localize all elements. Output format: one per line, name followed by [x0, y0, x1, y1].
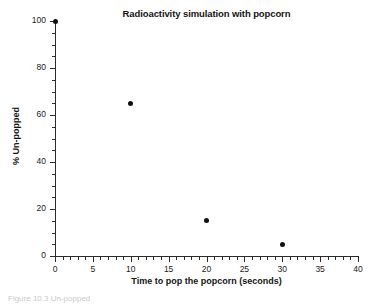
y-axis-tick-label: 80	[14, 62, 46, 72]
x-axis-major-tick	[131, 257, 132, 262]
x-axis-minor-tick	[343, 257, 344, 260]
y-axis-tick-label: 0	[14, 250, 46, 260]
x-axis-major-tick	[244, 257, 245, 262]
x-axis-major-tick	[320, 257, 321, 262]
x-axis-minor-tick	[229, 257, 230, 260]
data-point	[128, 101, 133, 106]
x-axis-minor-tick	[153, 257, 154, 260]
x-axis-minor-tick	[313, 257, 314, 260]
figure-container: Radioactivity simulation with popcorn 05…	[0, 0, 373, 304]
x-axis-minor-tick	[161, 257, 162, 260]
x-axis-minor-tick	[237, 257, 238, 260]
x-axis-tick-label: 0	[40, 264, 70, 274]
x-axis-tick-label: 10	[116, 264, 146, 274]
chart-title: Radioactivity simulation with popcorn	[55, 8, 358, 19]
x-axis-minor-tick	[214, 257, 215, 260]
x-axis-label: Time to pop the popcorn (seconds)	[55, 276, 358, 286]
figure-caption: Figure 10.3 Un-popped	[8, 294, 368, 304]
x-axis-minor-tick	[138, 257, 139, 260]
x-axis-minor-tick	[260, 257, 261, 260]
x-axis-tick-label: 25	[229, 264, 259, 274]
x-axis-minor-tick	[123, 257, 124, 260]
x-axis-minor-tick	[267, 257, 268, 260]
y-axis-label: % Un-popped	[11, 91, 21, 181]
x-axis-minor-tick	[85, 257, 86, 260]
x-axis-minor-tick	[176, 257, 177, 260]
x-axis-minor-tick	[335, 257, 336, 260]
x-axis-minor-tick	[100, 257, 101, 260]
x-axis-minor-tick	[108, 257, 109, 260]
x-axis-major-tick	[55, 257, 56, 262]
x-axis-major-tick	[207, 257, 208, 262]
x-axis-tick-label: 20	[192, 264, 222, 274]
x-axis-minor-tick	[63, 257, 64, 260]
x-axis-minor-tick	[146, 257, 147, 260]
x-axis-minor-tick	[328, 257, 329, 260]
x-axis-minor-tick	[70, 257, 71, 260]
x-axis-major-tick	[282, 257, 283, 262]
x-axis-minor-tick	[191, 257, 192, 260]
x-axis-minor-tick	[184, 257, 185, 260]
data-point	[53, 19, 58, 24]
x-axis-minor-tick	[275, 257, 276, 260]
x-axis-minor-tick	[290, 257, 291, 260]
x-axis-major-tick	[93, 257, 94, 262]
x-axis-minor-tick	[116, 257, 117, 260]
x-axis-minor-tick	[252, 257, 253, 260]
x-axis-minor-tick	[199, 257, 200, 260]
y-axis-tick-label: 100	[14, 15, 46, 25]
x-axis-minor-tick	[305, 257, 306, 260]
x-axis-major-tick	[169, 257, 170, 262]
x-axis-minor-tick	[350, 257, 351, 260]
x-axis-major-tick	[358, 257, 359, 262]
x-axis-minor-tick	[222, 257, 223, 260]
x-axis-tick-label: 40	[343, 264, 373, 274]
x-axis-minor-tick	[78, 257, 79, 260]
x-axis-tick-label: 15	[154, 264, 184, 274]
x-axis-tick-label: 30	[267, 264, 297, 274]
x-axis-minor-tick	[297, 257, 298, 260]
y-axis-major-tick	[50, 256, 55, 257]
y-axis-tick-label: 20	[14, 203, 46, 213]
data-point	[280, 242, 285, 247]
x-axis-tick-label: 35	[305, 264, 335, 274]
x-axis-tick-label: 5	[78, 264, 108, 274]
